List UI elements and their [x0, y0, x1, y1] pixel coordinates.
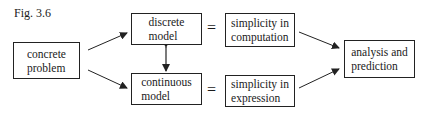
- node-simplicity-computation: simplicity in computation: [225, 13, 295, 47]
- node-continuous-model: continuous model: [131, 73, 202, 105]
- node-label-line2: model: [149, 29, 185, 43]
- equals-sign-top: =: [207, 20, 216, 36]
- node-label-line2: problem: [27, 61, 66, 75]
- node-label-line1: simplicity in: [231, 77, 289, 91]
- node-simplicity-expression: simplicity in expression: [225, 75, 295, 107]
- arrow-concrete-to-continuous: [88, 70, 127, 88]
- node-analysis-prediction: analysis and prediction: [344, 40, 415, 78]
- node-label-line1: continuous: [141, 75, 191, 89]
- arrow-computation-to-analysis: [299, 32, 339, 48]
- node-label-line1: simplicity in: [231, 16, 289, 30]
- arrow-concrete-to-discrete: [88, 33, 127, 50]
- node-label-line1: discrete: [149, 15, 185, 29]
- equals-sign-bottom: =: [207, 82, 216, 98]
- node-concrete-problem: concrete problem: [13, 42, 80, 79]
- node-label-line1: concrete: [27, 47, 66, 61]
- node-label-line1: analysis and: [351, 45, 408, 59]
- arrow-expression-to-analysis: [299, 69, 339, 88]
- node-label-line2: prediction: [351, 59, 408, 73]
- node-label-line2: computation: [231, 30, 289, 44]
- node-label-line2: model: [141, 89, 191, 103]
- node-label-line2: expression: [231, 91, 289, 105]
- node-discrete-model: discrete model: [131, 13, 202, 45]
